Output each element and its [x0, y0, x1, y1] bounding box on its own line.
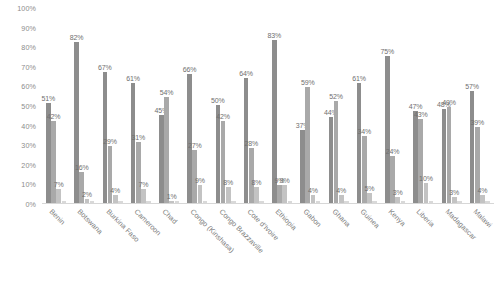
bar[interactable]: [79, 172, 84, 203]
bar-group: 44%52%4%: [325, 8, 353, 203]
bar[interactable]: [56, 189, 61, 203]
y-axis-tick: 50%: [21, 102, 36, 111]
bar[interactable]: [74, 42, 79, 203]
bar[interactable]: [424, 183, 429, 203]
x-axis-tick-slot: Benin: [42, 205, 70, 282]
bar[interactable]: [113, 195, 118, 203]
bar[interactable]: [226, 187, 231, 203]
x-axis-tick-slot: Congo Brazzaville: [212, 205, 240, 282]
x-axis-tick-label: Kenya: [387, 207, 408, 228]
bar[interactable]: [316, 201, 321, 203]
bar[interactable]: [329, 117, 334, 203]
bar[interactable]: [311, 195, 316, 203]
bar[interactable]: [118, 201, 123, 203]
bar-group: 83%9%9%: [268, 8, 296, 203]
bar-slot: [344, 8, 349, 203]
bar[interactable]: [272, 40, 277, 203]
bar[interactable]: [90, 201, 95, 203]
bar[interactable]: [362, 136, 367, 203]
bar[interactable]: [452, 197, 457, 203]
bar-slot: [485, 8, 490, 203]
x-axis-tick-slot: Chad: [155, 205, 183, 282]
bar[interactable]: [385, 56, 390, 203]
bar[interactable]: [192, 150, 197, 203]
bar[interactable]: [159, 115, 164, 203]
bar[interactable]: [395, 197, 400, 203]
bar[interactable]: [457, 201, 462, 203]
bar[interactable]: [46, 103, 51, 203]
bar[interactable]: [344, 201, 349, 203]
bar-group: 47%43%10%: [409, 8, 437, 203]
bar[interactable]: [221, 121, 226, 203]
bar-slot: [146, 8, 151, 203]
bar[interactable]: [254, 187, 259, 203]
bar[interactable]: [357, 83, 362, 203]
x-axis-tick-slot: Gabon: [296, 205, 324, 282]
bar[interactable]: [413, 111, 418, 203]
bar[interactable]: [51, 121, 56, 203]
bar[interactable]: [277, 185, 282, 203]
bar[interactable]: [339, 195, 344, 203]
y-axis-tick: 90%: [21, 23, 36, 32]
x-axis-tick-label: Liberia: [415, 207, 437, 229]
bar[interactable]: [305, 87, 310, 203]
x-axis-tick-slot: Congo (Kinshasa): [183, 205, 211, 282]
bar[interactable]: [447, 107, 452, 203]
bar[interactable]: [203, 201, 208, 203]
x-axis: BeninBotswanaBurkina FasoCameroonChadCon…: [42, 205, 494, 282]
x-axis-tick-slot: Malawi: [466, 205, 494, 282]
bar[interactable]: [146, 201, 151, 203]
bar[interactable]: [401, 201, 406, 203]
bar[interactable]: [429, 201, 434, 203]
bar[interactable]: [108, 146, 113, 203]
bar-group: 67%29%4%: [99, 8, 127, 203]
bar[interactable]: [249, 148, 254, 203]
bar-slot: [61, 8, 66, 203]
bar-slot: [118, 8, 123, 203]
bar[interactable]: [485, 201, 490, 203]
bar-slot: [316, 8, 321, 203]
bar[interactable]: [372, 201, 377, 203]
bar-group: 75%24%3%: [381, 8, 409, 203]
bar-slot: [259, 8, 264, 203]
x-axis-tick-slot: Botswana: [70, 205, 98, 282]
bar[interactable]: [131, 83, 136, 203]
bar[interactable]: [141, 189, 146, 203]
x-axis-tick-slot: Liberia: [409, 205, 437, 282]
bar[interactable]: [300, 130, 305, 203]
bar[interactable]: [244, 78, 249, 203]
bar[interactable]: [62, 201, 67, 203]
bar[interactable]: [442, 109, 447, 203]
bar[interactable]: [169, 201, 174, 203]
bar[interactable]: [164, 97, 169, 203]
bar-slot: [231, 8, 236, 203]
bar-slot: [429, 8, 434, 203]
bar[interactable]: [187, 74, 192, 203]
bar[interactable]: [288, 201, 293, 203]
bar[interactable]: [480, 195, 485, 203]
bar[interactable]: [334, 101, 339, 203]
bar[interactable]: [367, 193, 372, 203]
bar[interactable]: [175, 201, 180, 203]
x-axis-tick-label: Ghana: [330, 207, 352, 229]
bar[interactable]: [198, 185, 203, 203]
x-axis-tick-slot: Kenya: [381, 205, 409, 282]
bar[interactable]: [418, 119, 423, 203]
bar-group: 45%54%1%: [155, 8, 183, 203]
x-axis-tick-slot: Cameroon: [127, 205, 155, 282]
bar-group: 57%39%4%: [466, 8, 494, 203]
bar[interactable]: [85, 199, 90, 203]
bar-slot: [457, 8, 462, 203]
bar[interactable]: [103, 72, 108, 203]
bar[interactable]: [390, 156, 395, 203]
bar[interactable]: [136, 142, 141, 203]
bar-slot: [287, 8, 292, 203]
bar[interactable]: [282, 185, 287, 203]
bar[interactable]: [470, 91, 475, 203]
bar[interactable]: [259, 201, 264, 203]
bar[interactable]: [475, 127, 480, 203]
bar[interactable]: [216, 105, 221, 203]
plot-area: 51%42%7%82%16%2%67%29%4%61%31%7%45%54%1%…: [42, 8, 494, 204]
bar[interactable]: [231, 201, 236, 203]
x-axis-tick-slot: Madagascar: [438, 205, 466, 282]
